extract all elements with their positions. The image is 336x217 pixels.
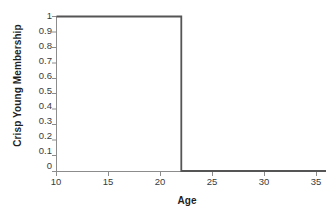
x-axis-tick-labels: 10 15 20 25 30 35 [0, 176, 336, 192]
x-tick-label: 25 [197, 176, 227, 187]
y-tick-label: 0.7 [24, 56, 52, 66]
y-tick-label: 0.2 [24, 131, 52, 141]
x-tick-label: 15 [93, 176, 123, 187]
x-tick-label: 30 [249, 176, 279, 187]
series-line-crisp-young-membership [57, 17, 327, 172]
y-tick-label: 0.5 [24, 86, 52, 96]
y-tick-label: 0.6 [24, 71, 52, 81]
x-tick-label: 35 [301, 176, 331, 187]
x-tick-label: 10 [41, 176, 71, 187]
x-axis-title: Age [56, 195, 318, 206]
y-tick-label: 0.3 [24, 116, 52, 126]
y-tick-label: 0.4 [24, 101, 52, 111]
y-tick-label: 0 [24, 161, 52, 171]
y-tick-label: 0.9 [24, 26, 52, 36]
y-tick-label: 0.8 [24, 41, 52, 51]
chart-container: Crisp Young Membership 1 0.9 0.8 0.7 0.6… [0, 0, 336, 217]
y-axis-title: Crisp Young Membership [12, 6, 23, 166]
y-tick-label: 0.1 [24, 146, 52, 156]
y-tick-marks [52, 17, 56, 172]
y-tick-label: 1 [24, 11, 52, 21]
x-tick-label: 20 [145, 176, 175, 187]
